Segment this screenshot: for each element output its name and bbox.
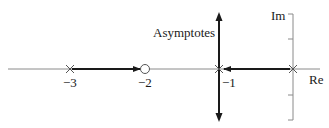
tick-label-neg3: −3 [63, 76, 77, 89]
arrow-down-icon [216, 113, 223, 122]
asymptotes-label: Asymptotes [153, 26, 215, 39]
tick-label-neg2: −2 [138, 76, 152, 89]
tick-label-neg1: −1 [222, 76, 236, 89]
arrow-up-icon [216, 12, 223, 21]
real-axis-label: Re [309, 73, 323, 86]
imag-axis-label: Im [271, 9, 285, 22]
zero-marker-neg2 [141, 65, 150, 74]
